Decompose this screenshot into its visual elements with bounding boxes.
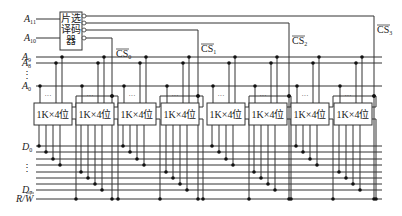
memory-chip: 1K×4位 bbox=[249, 103, 287, 125]
junction-dot bbox=[201, 197, 205, 201]
junction-dot bbox=[360, 55, 364, 59]
junction-dot bbox=[38, 84, 42, 88]
memory-expansion-diagram: 片选译码器A11A10A9A8⋮A0D0⋮D7R/WCS3CS2CS1CS01K… bbox=[0, 0, 402, 216]
junction-dot bbox=[54, 61, 58, 65]
junction-dot bbox=[315, 163, 319, 167]
memory-chip: 1K×4位 bbox=[207, 103, 245, 125]
junction-dot bbox=[259, 176, 263, 180]
junction-dot bbox=[142, 163, 146, 167]
junction-dot bbox=[273, 188, 277, 192]
junction-dot bbox=[253, 84, 257, 88]
memory-chip: 1K×4位 bbox=[34, 103, 72, 125]
address-ellipsis: ··· bbox=[260, 92, 267, 100]
chip-label: 1K×4位 bbox=[79, 108, 112, 120]
junction-dot bbox=[44, 150, 48, 154]
data-bus-label: ⋮ bbox=[22, 162, 32, 173]
junction-dot bbox=[354, 61, 358, 65]
decoder-label: 译码 bbox=[61, 24, 81, 35]
chip-label: 1K×4位 bbox=[337, 108, 370, 120]
junction-dot bbox=[80, 84, 84, 88]
junction-dot bbox=[227, 61, 231, 65]
decoder-label: 器 bbox=[66, 35, 76, 46]
address-ellipsis: ··· bbox=[87, 92, 94, 100]
junction-dot bbox=[252, 170, 256, 174]
chip-label: 1K×4位 bbox=[164, 108, 197, 120]
junction-dot bbox=[158, 197, 162, 201]
junction-dot bbox=[102, 55, 106, 59]
junction-dot bbox=[217, 150, 221, 154]
junction-dot bbox=[233, 55, 237, 59]
junction-dot bbox=[266, 182, 270, 186]
junction-dot bbox=[196, 197, 200, 201]
junction-dot bbox=[358, 188, 362, 192]
cs-label: CS0 bbox=[116, 48, 131, 60]
data-bus-label: D0 bbox=[21, 141, 32, 153]
junction-dot bbox=[171, 176, 175, 180]
junction-dot bbox=[178, 182, 182, 186]
junction-dot bbox=[317, 55, 321, 59]
address-input-label: A10 bbox=[23, 32, 36, 44]
chip-label: 1K×4位 bbox=[37, 108, 70, 120]
address-ellipsis: ··· bbox=[129, 92, 136, 100]
junction-dot bbox=[351, 182, 355, 186]
junction-dot bbox=[144, 55, 148, 59]
junction-dot bbox=[93, 182, 97, 186]
chip-label: 1K×4位 bbox=[210, 108, 243, 120]
junction-dot bbox=[294, 144, 298, 148]
address-bus-label: ⋮ bbox=[22, 69, 32, 80]
junction-dot bbox=[275, 55, 279, 59]
cs-label: CS1 bbox=[201, 43, 216, 55]
junction-dot bbox=[187, 55, 191, 59]
junction-dot bbox=[344, 176, 348, 180]
junction-dot bbox=[308, 157, 312, 161]
junction-dot bbox=[338, 84, 342, 88]
junction-dot bbox=[100, 188, 104, 192]
junction-dot bbox=[122, 84, 126, 88]
junction-dot bbox=[374, 197, 378, 201]
junction-dot bbox=[165, 84, 169, 88]
junction-dot bbox=[295, 84, 299, 88]
junction-dot bbox=[269, 61, 273, 65]
address-ellipsis: ··· bbox=[172, 92, 179, 100]
junction-dot bbox=[231, 163, 235, 167]
chip-label: 1K×4位 bbox=[121, 108, 154, 120]
decoder-output-bubble bbox=[82, 21, 86, 25]
chip-label: 1K×4位 bbox=[294, 108, 327, 120]
junction-dot bbox=[74, 197, 78, 201]
junction-dot bbox=[301, 150, 305, 154]
junction-dot bbox=[331, 197, 335, 201]
junction-dot bbox=[110, 197, 114, 201]
cs-label: CS2 bbox=[292, 35, 307, 47]
decoder-label: 片选 bbox=[61, 12, 81, 24]
junction-dot bbox=[211, 84, 215, 88]
junction-dot bbox=[135, 157, 139, 161]
junction-dot bbox=[86, 176, 90, 180]
decoder-output-bubble bbox=[82, 14, 86, 18]
junction-dot bbox=[79, 170, 83, 174]
junction-dot bbox=[116, 197, 120, 201]
junction-dot bbox=[138, 61, 142, 65]
decoder-output-bubble bbox=[82, 36, 86, 40]
memory-chip: 1K×4位 bbox=[334, 103, 372, 125]
junction-dot bbox=[337, 170, 341, 174]
memory-chip: 1K×4位 bbox=[76, 103, 114, 125]
junction-dot bbox=[181, 61, 185, 65]
junction-dot bbox=[247, 197, 251, 201]
junction-dot bbox=[58, 163, 62, 167]
address-input-label: A11 bbox=[23, 13, 36, 25]
address-ellipsis: ··· bbox=[218, 92, 225, 100]
rw-label: R/W bbox=[15, 193, 35, 204]
junction-dot bbox=[96, 61, 100, 65]
address-ellipsis: ··· bbox=[345, 92, 352, 100]
decoder-output-bubble bbox=[82, 28, 86, 32]
junction-dot bbox=[164, 170, 168, 174]
memory-chip: 1K×4位 bbox=[291, 103, 329, 125]
junction-dot bbox=[110, 94, 114, 98]
junction-dot bbox=[210, 144, 214, 148]
memory-chip: 1K×4位 bbox=[118, 103, 156, 125]
junction-dot bbox=[51, 157, 55, 161]
chip-label: 1K×4位 bbox=[252, 108, 285, 120]
junction-dot bbox=[224, 157, 228, 161]
junction-dot bbox=[37, 144, 41, 148]
address-bus-label: A0 bbox=[21, 80, 31, 92]
